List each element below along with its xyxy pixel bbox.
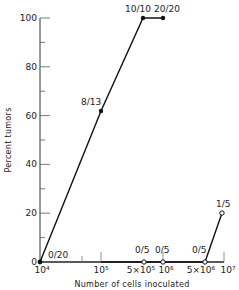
y-tick-40: 40 (26, 159, 38, 169)
point-0-5-c (203, 260, 207, 264)
x-tick-1e6: 10⁶ (158, 265, 173, 275)
x-axis-title: Number of cells inoculated (74, 280, 189, 289)
y-tick-100: 100 (20, 13, 37, 23)
label-10-10: 10/10 (125, 4, 151, 14)
label-0-5-c: 0/5 (192, 245, 206, 255)
point-0-5-a (142, 260, 146, 264)
label-8-13: 8/13 (81, 97, 101, 107)
x-tick-5e5: 5×10⁵ (127, 265, 156, 275)
point-labels: 0/20 8/13 10/10 20/20 0/5 0/5 0/5 1/5 (48, 4, 230, 260)
series-a-markers (38, 16, 166, 265)
y-tick-labels: 100 80 60 40 20 0 (20, 13, 37, 267)
label-0-20: 0/20 (48, 250, 68, 260)
point-10-10 (141, 16, 145, 20)
label-20-20: 20/20 (154, 4, 180, 14)
y-ticks (40, 18, 50, 238)
x-tick-5e6: 5×10⁶ (187, 265, 216, 275)
x-tick-labels: 10⁴ 10⁵ 5×10⁵ 10⁶ 5×10⁶ 10⁷ (34, 265, 235, 275)
x-tick-1e4: 10⁴ (34, 265, 49, 275)
y-axis-title: Percent tumors (4, 107, 13, 172)
point-1-5 (220, 211, 224, 215)
y-tick-80: 80 (26, 62, 38, 72)
point-0-5-b (161, 260, 165, 264)
tumor-incidence-chart: 100 80 60 40 20 0 10⁴ 10⁵ 5×10⁵ 10⁶ 5×10… (0, 0, 239, 290)
x-tick-1e7: 10⁷ (220, 265, 235, 275)
x-tick-1e5: 10⁵ (93, 265, 108, 275)
point-8-13 (99, 109, 103, 113)
point-0-20 (38, 260, 43, 265)
y-tick-20: 20 (26, 208, 38, 218)
series-a-line (40, 18, 163, 262)
series-b-markers (142, 211, 224, 264)
label-0-5-a: 0/5 (135, 245, 149, 255)
label-1-5: 1/5 (216, 199, 230, 209)
point-20-20 (161, 16, 165, 20)
y-tick-60: 60 (26, 111, 38, 121)
label-0-5-b: 0/5 (155, 245, 169, 255)
